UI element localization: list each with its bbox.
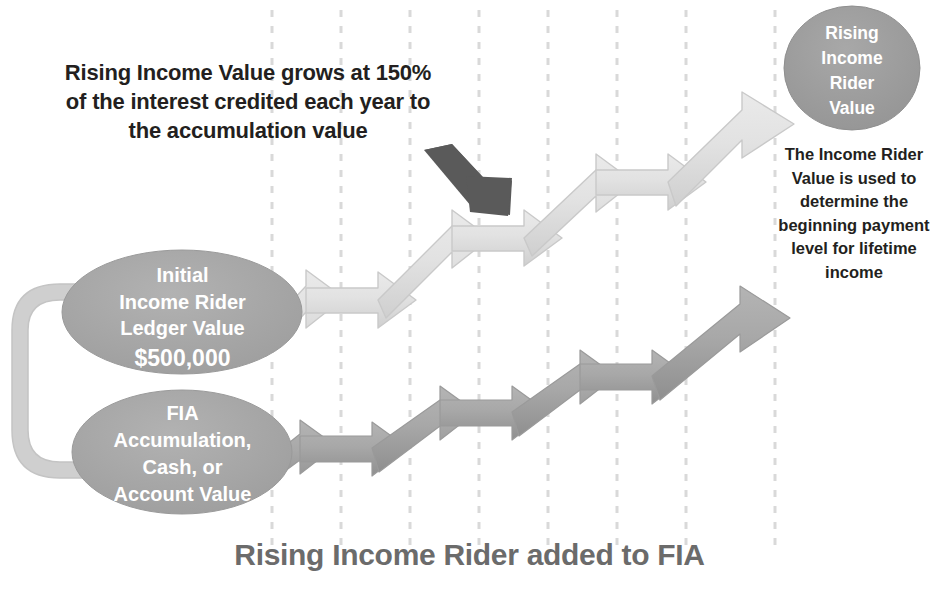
diagram-canvas: Rising Income Value grows at 150% of the…: [0, 0, 939, 599]
circle-label-line-1: Rising: [792, 21, 912, 46]
figure-title: Rising Income Rider added to FIA: [0, 534, 939, 576]
rising-income-rider-value-label: Rising Income Rider Value: [792, 21, 912, 121]
ledger-label-line-2: Income Rider: [80, 289, 285, 316]
accumulation-label-line-4: Account Value: [80, 481, 285, 508]
callout-text: Rising Income Value grows at 150% of the…: [62, 58, 434, 145]
accumulation-label-line-2: Accumulation,: [80, 427, 285, 454]
accumulation-label-line-3: Cash, or: [80, 454, 285, 481]
accumulation-label-line-1: FIA: [80, 400, 285, 427]
circle-label-line-2: Income: [792, 46, 912, 71]
callout-pointer-arrow: [424, 144, 512, 216]
circle-label-line-4: Value: [792, 96, 912, 121]
accumulation-ellipse-label: FIA Accumulation, Cash, or Account Value: [80, 400, 285, 508]
circle-label-line-3: Rider: [792, 71, 912, 96]
ledger-label-line-1: Initial: [80, 262, 285, 289]
ledger-label-line-3: Ledger Value: [80, 315, 285, 342]
income-rider-value-note: The Income Rider Value is used to determ…: [776, 143, 932, 284]
ledger-value-ellipse-label: Initial Income Rider Ledger Value $500,0…: [80, 262, 285, 375]
ledger-value-amount: $500,000: [80, 342, 285, 375]
accumulation-value-staircase: [255, 286, 790, 488]
